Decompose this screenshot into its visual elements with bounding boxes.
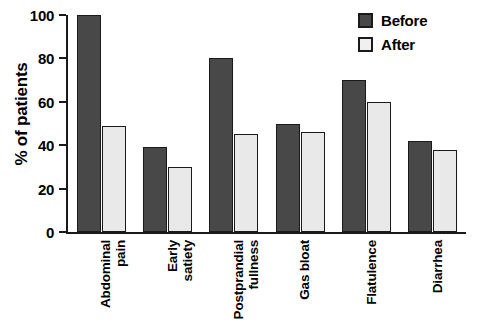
y-axis-tick-label: 60 <box>38 93 54 110</box>
bar-after <box>234 134 258 232</box>
y-axis-tick-label: 100 <box>30 7 54 24</box>
bar-before <box>342 80 366 232</box>
x-axis-category-label: Early satiety <box>166 240 195 330</box>
x-axis-line <box>66 232 466 234</box>
bar-after <box>301 132 325 232</box>
bar-before <box>77 15 101 232</box>
bar-after <box>433 150 457 232</box>
y-axis-tick: 20 <box>59 188 66 190</box>
bar-chart: % of patients 020406080100 Abdominal pai… <box>0 0 477 330</box>
legend-swatch-after-icon <box>358 37 373 52</box>
y-axis-tick-label: 0 <box>46 224 54 241</box>
y-axis-tick: 40 <box>59 144 66 146</box>
bar-group <box>201 15 267 232</box>
legend-label-before: Before <box>381 12 427 29</box>
x-axis-category-label: Gas bloat <box>298 240 313 330</box>
x-axis-category-label: Abdominal pain <box>99 240 128 330</box>
bar-group <box>134 15 200 232</box>
bar-before <box>209 58 233 232</box>
y-axis-tick: 80 <box>59 57 66 59</box>
legend-item-before: Before <box>358 12 427 29</box>
bar-before <box>143 147 167 232</box>
x-axis-category-label: Flatulence <box>365 240 380 330</box>
y-axis-tick-label: 40 <box>38 137 54 154</box>
y-axis-tick-label: 20 <box>38 180 54 197</box>
bar-after <box>367 102 391 232</box>
x-axis-category-label: Diarrhea <box>431 240 446 330</box>
bar-after <box>168 167 192 232</box>
bar-before <box>276 124 300 233</box>
y-axis-tick: 60 <box>59 101 66 103</box>
y-axis-tick: 0 <box>59 231 66 233</box>
legend-swatch-before-icon <box>358 13 373 28</box>
bar-group <box>267 15 333 232</box>
x-axis-category-label: Postprandial fullness <box>232 240 261 330</box>
chart-legend: Before After <box>358 12 427 60</box>
bar-group <box>68 15 134 232</box>
legend-label-after: After <box>381 36 415 53</box>
bar-after <box>102 126 126 232</box>
legend-item-after: After <box>358 36 427 53</box>
y-axis-tick-label: 80 <box>38 50 54 67</box>
y-axis-tick: 100 <box>59 14 66 16</box>
x-axis-labels: Abdominal painEarly satietyPostprandial … <box>66 240 466 330</box>
y-axis-title: % of patients <box>12 54 32 174</box>
bar-before <box>408 141 432 232</box>
